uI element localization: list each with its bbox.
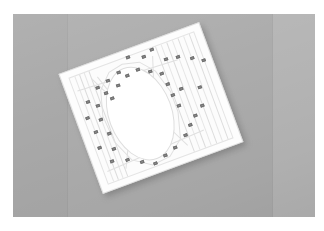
photograph-frame <box>0 0 324 231</box>
backdrop-seam-right <box>272 14 273 217</box>
backdrop-seam-left <box>67 14 68 217</box>
studio-backdrop <box>13 14 315 217</box>
backdrop-panel-right <box>272 14 315 217</box>
backdrop-panel-left <box>13 14 67 217</box>
